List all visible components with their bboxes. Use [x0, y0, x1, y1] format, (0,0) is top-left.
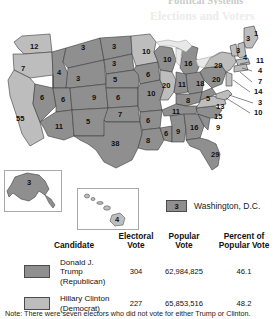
- ev-label-IN: 11: [178, 81, 186, 89]
- footnote: Note: There were seven electors who did …: [5, 309, 251, 318]
- ev-label-NE: 5: [113, 76, 117, 84]
- ev-label-FL: 29: [211, 151, 219, 159]
- candidate-name-trump: Donald J. Trump (Republican): [54, 254, 117, 291]
- ev-label-CO: 9: [92, 94, 96, 102]
- ev-label-OR: 7: [21, 65, 25, 73]
- ev-label-OK: 7: [118, 111, 122, 119]
- candidate-party-trump: (Republican): [60, 277, 117, 287]
- ev-label-IL: 20: [162, 82, 170, 90]
- ev-label-SC: 9: [216, 124, 220, 132]
- ev-label-NC: 15: [214, 113, 222, 121]
- ev-label-UT: 6: [61, 96, 65, 104]
- ev-label-NY: 29: [214, 62, 222, 70]
- header-electoral-vote: Electoral Vote: [117, 232, 155, 254]
- ev-label-MO: 10: [147, 90, 155, 98]
- ev-label-TX: 38: [111, 140, 119, 148]
- hawaii-inset: 4: [77, 188, 139, 230]
- header-candidate: Candidate: [0, 232, 117, 254]
- us-map-svg: [0, 18, 275, 190]
- ev-label-CA: 55: [16, 115, 24, 123]
- ev-label-MN: 10: [142, 48, 150, 56]
- alaska-inset: 3: [4, 170, 62, 212]
- ev-label-MA: 11: [256, 57, 264, 65]
- ev-label-GA: 16: [190, 124, 198, 132]
- ev-label-AZ: 11: [55, 123, 63, 131]
- ev-label-WI: 10: [163, 56, 171, 64]
- alaska-svg: [5, 171, 61, 211]
- dc-key: 3 Washington, D.C.: [166, 200, 260, 212]
- percent-popular-vote-trump: 46.1: [213, 254, 275, 291]
- state-CT-RI: [234, 64, 248, 72]
- ev-label-ID: 4: [57, 69, 61, 77]
- ev-label-WY: 3: [76, 75, 80, 83]
- popular-vote-trump: 62,984,825: [155, 254, 213, 291]
- electoral-vote-trump: 304: [117, 254, 155, 291]
- ev-label-WV: 5: [206, 95, 210, 103]
- island-kauai: [84, 194, 89, 198]
- electoral-map: 12 7 55 6 4 3 3 6 11 5 9 3 3 5 6 7 38 10…: [0, 18, 275, 190]
- ev-label-ME-statewide: 1: [254, 30, 258, 38]
- ev-label-AL: 9: [176, 128, 180, 136]
- dc-key-label: Washington, D.C.: [194, 201, 260, 211]
- ev-label-TN: 11: [172, 108, 180, 116]
- header-popular-vote: Popular Vote: [155, 232, 213, 254]
- state-AK-panhandle: [45, 195, 55, 208]
- results-table-wrapper: Candidate Electoral Vote Popular Vote Pe…: [0, 232, 275, 318]
- ev-label-SD: 3: [112, 60, 116, 68]
- state-NJ: [226, 72, 232, 86]
- ev-label-KS: 6: [116, 94, 120, 102]
- ev-label-MI: 16: [184, 60, 192, 68]
- candidate-name-trump-line1: Donald J. Trump: [60, 258, 117, 277]
- ev-label-MD: 10: [254, 109, 262, 117]
- ev-label-NJ: 14: [254, 88, 262, 96]
- ev-label-HI: 4: [115, 216, 119, 224]
- ev-label-DE: 3: [258, 99, 262, 107]
- ev-label-IA: 6: [146, 71, 150, 79]
- header-popular-vote-line2: Vote: [155, 241, 213, 250]
- ev-label-MS: 6: [164, 130, 168, 138]
- header-percent-line2: Popular Vote: [213, 241, 275, 250]
- ev-label-AK: 3: [27, 179, 31, 187]
- ev-label-PA: 20: [212, 76, 220, 84]
- ev-label-NH: 4: [243, 54, 247, 62]
- header-electoral-vote-line2: Vote: [117, 241, 155, 250]
- ev-label-VT: 3: [236, 47, 240, 55]
- candidate-name-clinton-line1: Hillary Clinton: [60, 294, 117, 304]
- ev-label-LA: 8: [146, 137, 150, 145]
- state-KS: [106, 88, 138, 108]
- state-AR: [140, 110, 162, 130]
- ev-label-NM: 5: [86, 118, 90, 126]
- ev-label-RI: 4: [258, 67, 262, 75]
- state-LA: [138, 128, 164, 150]
- hawaii-svg: [78, 189, 138, 229]
- header-percent-popular-vote: Percent of Popular Vote: [213, 232, 275, 254]
- ev-label-ME-district: 3: [246, 35, 250, 43]
- island-molokai: [97, 202, 103, 205]
- ev-label-KY: 8: [186, 97, 190, 105]
- ev-label-AR: 6: [146, 117, 150, 125]
- ev-label-WA: 12: [30, 43, 38, 51]
- ev-label-MT: 3: [81, 44, 85, 52]
- table-header-row: Candidate Electoral Vote Popular Vote Pe…: [0, 232, 275, 254]
- ev-label-CT: 7: [258, 78, 262, 86]
- state-CO: [70, 84, 108, 110]
- ev-label-VA: 13: [216, 103, 224, 111]
- island-maui: [104, 206, 111, 210]
- legend-swatch-trump: [24, 265, 50, 278]
- ev-label-NV: 6: [40, 94, 44, 102]
- legend-swatch-cell-trump: [0, 254, 54, 291]
- table-row: Donald J. Trump (Republican) 304 62,984,…: [0, 254, 275, 291]
- island-oahu: [91, 198, 95, 201]
- results-table: Candidate Electoral Vote Popular Vote Pe…: [0, 232, 275, 318]
- ev-label-OH: 18: [196, 80, 204, 88]
- dc-swatch: 3: [166, 200, 187, 212]
- ev-label-ND: 3: [112, 43, 116, 51]
- page-headline-fragment: Political Systems: [168, 0, 275, 5]
